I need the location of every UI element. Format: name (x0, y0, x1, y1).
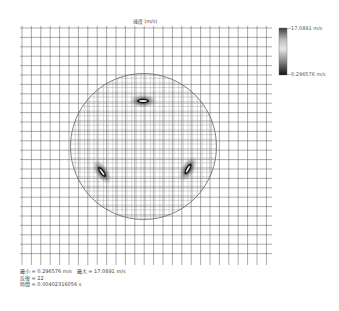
colorbar (279, 28, 287, 75)
hotspot-top (129, 94, 157, 108)
hotspot-left (88, 157, 116, 188)
mesh-plot (0, 0, 339, 311)
colorbar-max-label: 17.0891 m/s (291, 25, 322, 31)
mesh-grid (20, 26, 272, 265)
time-value: 時間 = 0.00402316056 s (20, 281, 81, 287)
min-max-stats: 最小 = 0.296576 m/s 最大 = 17.0891 m/s (20, 268, 126, 274)
iteration-count: 反復 = 22 (20, 275, 44, 281)
stats-footer: 最小 = 0.296576 m/s 最大 = 17.0891 m/s 反復 = … (20, 268, 126, 288)
colorbar-min-label: 0.296576 m/s (291, 71, 326, 77)
